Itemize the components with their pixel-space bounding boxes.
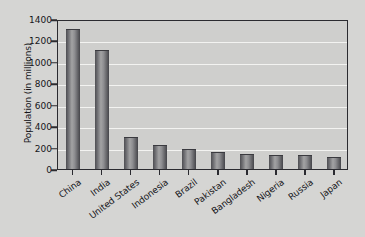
y-tick-label: 0	[12, 165, 52, 175]
bar	[327, 157, 341, 169]
x-tick-mark	[72, 170, 74, 175]
y-tick-label: 1200	[12, 36, 52, 46]
x-tick-mark	[217, 170, 219, 175]
y-tick-label: 600	[12, 101, 52, 111]
y-tick-label: 800	[12, 79, 52, 89]
bar	[95, 50, 109, 169]
x-tick-mark	[188, 170, 190, 175]
x-axis-label: Russia	[287, 177, 316, 202]
gridline	[58, 42, 347, 43]
x-tick-mark	[101, 170, 103, 175]
bar	[298, 155, 312, 169]
y-tick-label: 1400	[12, 15, 52, 25]
bar	[269, 155, 283, 169]
plot-area	[57, 20, 348, 170]
bar	[153, 145, 167, 169]
y-tick-label: 400	[12, 122, 52, 132]
bar	[211, 152, 225, 169]
x-axis-label: Nigeria	[255, 177, 286, 204]
x-tick-mark	[159, 170, 161, 175]
y-tick-label: 1000	[12, 58, 52, 68]
bar	[66, 29, 80, 169]
bar	[240, 154, 254, 169]
x-tick-mark	[275, 170, 277, 175]
x-axis-label: India	[88, 177, 111, 198]
x-axis-label: Japan	[319, 177, 345, 200]
x-tick-mark	[130, 170, 132, 175]
x-tick-mark	[304, 170, 306, 175]
y-tick-label: 200	[12, 144, 52, 154]
bar	[182, 149, 196, 169]
x-tick-mark	[333, 170, 335, 175]
bar	[124, 137, 138, 169]
x-tick-mark	[246, 170, 248, 175]
population-bar-chart: Population (in millions) 020040060080010…	[0, 0, 365, 237]
x-axis-label: China	[56, 177, 82, 200]
